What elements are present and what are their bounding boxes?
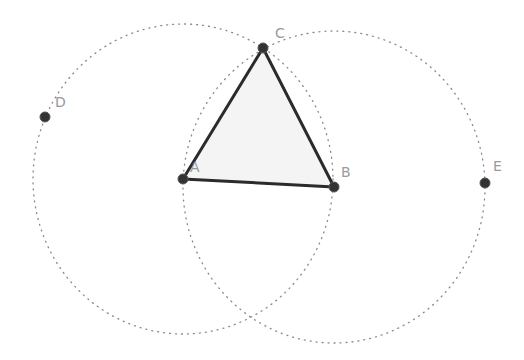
point-c[interactable] xyxy=(258,43,268,53)
point-d[interactable] xyxy=(40,112,50,122)
point-e[interactable] xyxy=(480,178,490,188)
label-c: C xyxy=(275,25,285,41)
geometry-canvas[interactable]: ABCDE xyxy=(0,0,524,360)
label-e: E xyxy=(493,158,502,174)
label-b: B xyxy=(341,164,351,180)
label-a: A xyxy=(190,159,200,175)
point-a[interactable] xyxy=(178,174,188,184)
label-d: D xyxy=(55,94,66,110)
triangle-abc-fill xyxy=(183,48,334,187)
point-b[interactable] xyxy=(329,182,339,192)
